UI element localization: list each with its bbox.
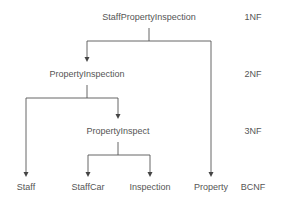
node-property-inspect: PropertyInspect xyxy=(86,126,150,136)
level-1nf: 1NF xyxy=(244,12,262,22)
normalization-tree: StaffPropertyInspection PropertyInspecti… xyxy=(0,0,283,203)
arrow-head-icon xyxy=(116,114,121,119)
arrow-head-icon xyxy=(209,172,214,177)
node-staff: Staff xyxy=(17,182,36,192)
node-staffcar: StaffCar xyxy=(72,182,105,192)
arrow-head-icon xyxy=(85,57,90,62)
arrow-head-icon xyxy=(24,172,29,177)
level-2nf: 2NF xyxy=(244,69,262,79)
level-bcnf: BCNF xyxy=(241,182,266,192)
node-property-inspection: PropertyInspection xyxy=(49,69,124,79)
arrow-head-icon xyxy=(148,172,153,177)
arrow-head-icon xyxy=(86,172,91,177)
level-3nf: 3NF xyxy=(244,126,262,136)
node-inspection: Inspection xyxy=(129,182,170,192)
node-root: StaffPropertyInspection xyxy=(102,12,195,22)
node-property: Property xyxy=(194,182,229,192)
